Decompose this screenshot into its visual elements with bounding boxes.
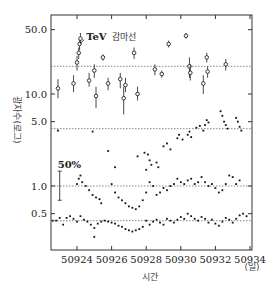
data-point: [137, 155, 139, 157]
data-point: [125, 202, 127, 204]
data-point: [208, 185, 210, 187]
data-point: [79, 37, 83, 41]
data-point: [184, 34, 188, 38]
data-point: [239, 214, 241, 216]
data-point: [189, 131, 191, 133]
data-point: [221, 115, 223, 117]
data-point: [87, 79, 91, 83]
data-point: [121, 199, 123, 201]
data-point: [215, 187, 217, 189]
x-axis: 509245092650928509305093250934: [61, 15, 266, 265]
data-point: [194, 218, 196, 220]
x-tick-label: 50926: [96, 254, 128, 265]
data-point: [114, 223, 116, 225]
data-point: [153, 68, 157, 72]
data-point: [156, 194, 158, 196]
data-point: [218, 225, 220, 227]
data-point: [80, 215, 82, 217]
data-point: [197, 181, 199, 183]
data-point: [80, 175, 82, 177]
data-point: [206, 119, 208, 121]
data-point: [52, 220, 54, 222]
data-point: [187, 213, 189, 215]
data-point: [94, 94, 98, 98]
series-3: [52, 213, 248, 238]
data-point: [78, 178, 80, 180]
data-point: [189, 71, 193, 75]
data-point: [166, 143, 168, 145]
data-point: [211, 219, 213, 221]
data-point: [142, 226, 144, 228]
data-point: [173, 183, 175, 185]
data-point: [111, 183, 113, 185]
data-point: [199, 125, 201, 127]
data-point: [218, 192, 220, 194]
x-axis-title: 시간: [142, 272, 158, 282]
data-point: [227, 128, 229, 130]
data-point: [118, 225, 120, 227]
data-point: [208, 222, 210, 224]
data-point: [224, 63, 228, 67]
data-point: [228, 219, 230, 221]
data-point: [100, 221, 102, 223]
data-point: [118, 77, 122, 81]
data-point: [145, 169, 147, 171]
data-point: [101, 56, 105, 60]
data-point: [111, 222, 113, 224]
data-point: [176, 219, 178, 221]
data-point: [142, 199, 144, 201]
data-point: [131, 231, 133, 233]
y-tick-label: 10.0: [25, 89, 47, 100]
data-point: [163, 187, 165, 189]
data-point: [167, 42, 171, 46]
data-point: [107, 221, 109, 223]
data-point: [195, 127, 197, 129]
data-point: [135, 229, 137, 231]
data-point: [145, 192, 147, 194]
data-point: [81, 181, 83, 183]
data-point: [190, 215, 192, 217]
data-point: [232, 222, 234, 224]
data-point: [107, 150, 109, 152]
data-point: [97, 223, 99, 225]
annotation-50-percent: 50%: [58, 159, 82, 170]
annotation-tev: TeV: [86, 31, 107, 42]
data-point: [242, 213, 244, 215]
data-point: [128, 206, 130, 208]
data-point: [75, 61, 79, 65]
data-point: [93, 236, 95, 238]
data-point: [95, 197, 97, 199]
data-point: [128, 229, 130, 231]
data-point: [225, 183, 227, 185]
data-series: [52, 33, 248, 238]
data-point: [176, 178, 178, 180]
data-point: [183, 183, 185, 185]
x-tick-label: 50924: [61, 254, 93, 265]
data-point: [240, 130, 242, 132]
data-point: [144, 152, 146, 154]
data-point: [180, 181, 182, 183]
data-point: [135, 208, 137, 210]
data-point: [178, 134, 180, 136]
data-point: [145, 220, 147, 222]
data-point: [69, 215, 71, 217]
data-point: [187, 134, 189, 136]
data-point: [59, 217, 61, 219]
data-point: [99, 198, 101, 200]
data-point: [147, 154, 149, 156]
data-point: [215, 223, 217, 225]
data-point: [62, 224, 64, 226]
data-point: [118, 197, 120, 199]
data-point: [221, 189, 223, 191]
data-point: [93, 69, 97, 73]
data-point: [90, 224, 92, 226]
data-point: [56, 87, 60, 91]
y-tick-label: 0.5: [31, 208, 47, 219]
data-point: [201, 82, 205, 86]
y-axis-title: 광자수(로그): [12, 96, 23, 143]
data-point: [88, 189, 90, 191]
data-point: [201, 216, 203, 218]
data-point: [138, 228, 140, 230]
data-point: [159, 192, 161, 194]
reference-lines: [51, 66, 252, 220]
